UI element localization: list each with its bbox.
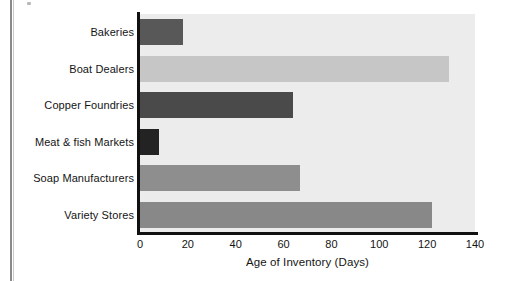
bar (140, 56, 449, 82)
x-axis-tick-label: 120 (418, 238, 436, 250)
bar-row (140, 160, 300, 197)
scan-artifact-speck (27, 2, 31, 5)
bar (140, 92, 293, 118)
category-label: Variety Stores (6, 209, 134, 221)
bar (140, 129, 159, 155)
bar (140, 165, 300, 191)
bar-row (140, 87, 293, 124)
x-axis-tick-label: 100 (370, 238, 388, 250)
bar-row (140, 51, 449, 88)
bar (140, 19, 183, 45)
bar-chart-figure: Bakeries Boat Dealers Copper Foundries M… (0, 0, 507, 281)
category-label: Copper Foundries (6, 99, 134, 111)
x-axis-tick-label: 0 (137, 238, 143, 250)
bar-row (140, 14, 183, 51)
category-label: Bakeries (6, 26, 134, 38)
bar (140, 202, 432, 228)
x-axis-title: Age of Inventory (Days) (140, 256, 475, 268)
x-axis-tick-label: 40 (230, 238, 242, 250)
x-axis-tick-labels: 020406080100120140 (140, 238, 475, 254)
x-axis-tick-label: 20 (182, 238, 194, 250)
category-axis-labels: Bakeries Boat Dealers Copper Foundries M… (2, 14, 134, 233)
x-axis-tick-label: 60 (277, 238, 289, 250)
x-axis-tick-label: 80 (325, 238, 337, 250)
bar-row (140, 197, 432, 234)
category-label: Boat Dealers (6, 63, 134, 75)
bar-row (140, 124, 159, 161)
category-label: Meat & fish Markets (6, 136, 134, 148)
x-axis-tick-label: 140 (466, 238, 484, 250)
category-label: Soap Manufacturers (6, 172, 134, 184)
